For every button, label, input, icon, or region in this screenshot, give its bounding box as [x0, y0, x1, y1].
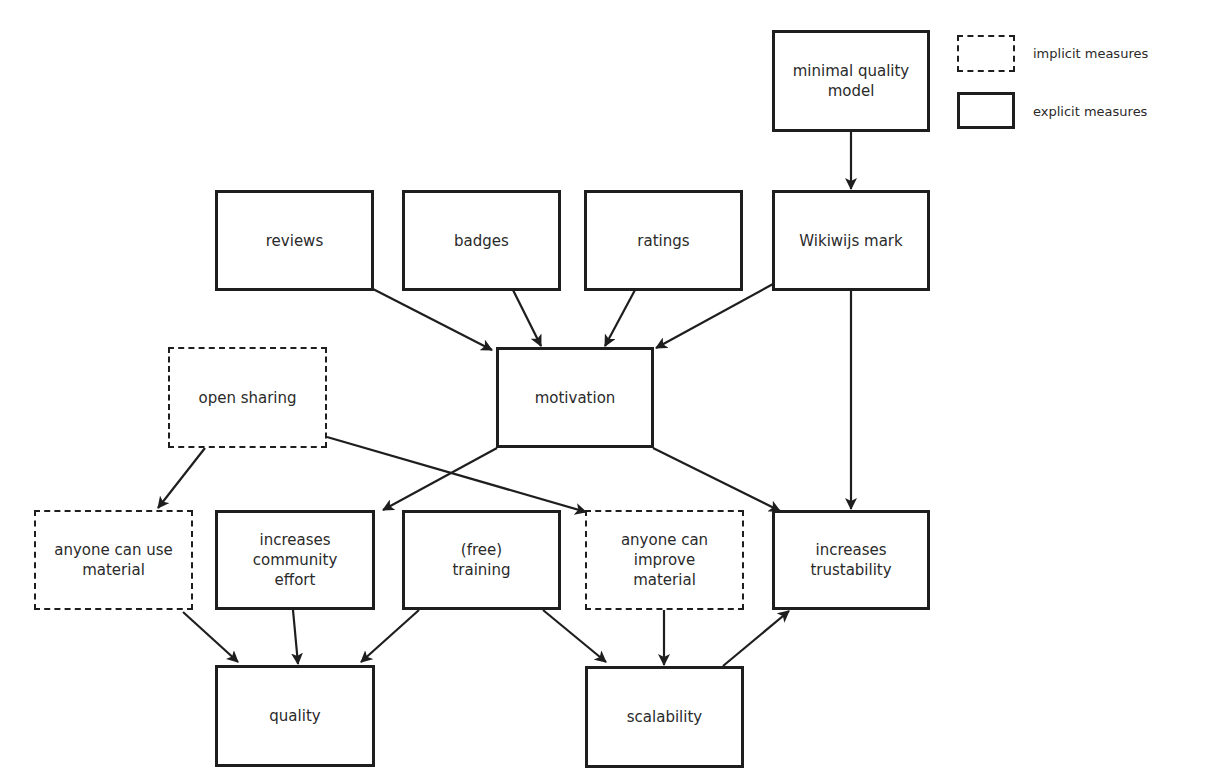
edge-badges-to-motivation — [513, 290, 541, 346]
edge-motivation-to-trustability — [653, 448, 780, 511]
node-minimal-quality-model: minimal quality model — [772, 30, 930, 132]
node-anyone-can-improve-material: anyone can improve material — [585, 510, 744, 610]
node-quality: quality — [215, 665, 375, 767]
node-wikiwijs-mark: Wikiwijs mark — [772, 190, 930, 291]
edge-open-sharing-to-anyone-improve — [327, 437, 586, 512]
node-open-sharing: open sharing — [168, 347, 327, 448]
node-reviews: reviews — [215, 190, 374, 291]
legend-implicit-label: implicit measures — [1033, 46, 1148, 61]
legend-implicit-swatch — [957, 35, 1015, 72]
edge-motivation-to-community-effort — [383, 448, 497, 510]
node-increases-community-effort: increases community effort — [215, 510, 375, 610]
edge-open-sharing-to-anyone-use — [158, 448, 205, 508]
edge-wikiwijs-to-motivation — [656, 284, 773, 348]
edge-scalability-to-trustability — [723, 611, 789, 666]
edge-anyone-use-to-quality — [183, 612, 238, 662]
node-increases-trustability: increases trustability — [772, 510, 930, 610]
legend-explicit-label: explicit measures — [1033, 104, 1147, 119]
edge-ratings-to-motivation — [605, 290, 635, 346]
legend-explicit-swatch — [957, 92, 1015, 129]
node-scalability: scalability — [585, 666, 744, 768]
node-free-training: (free) training — [402, 510, 561, 610]
edge-training-to-scalability — [543, 610, 606, 662]
quality-measures-diagram: implicit measures explicit measures mini… — [0, 0, 1206, 784]
edge-reviews-to-motivation — [373, 289, 492, 350]
node-badges: badges — [402, 190, 561, 291]
edge-community-effort-to-quality — [293, 610, 298, 664]
edge-training-to-quality — [361, 610, 419, 662]
node-anyone-can-use-material: anyone can use material — [34, 510, 193, 610]
node-motivation: motivation — [496, 347, 654, 448]
node-ratings: ratings — [584, 190, 743, 291]
